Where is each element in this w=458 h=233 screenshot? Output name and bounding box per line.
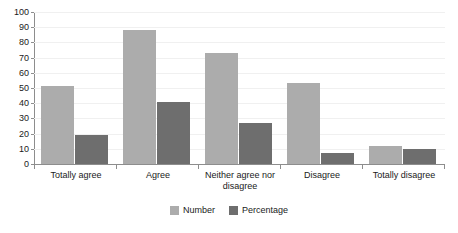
- y-tick-label: 50: [19, 84, 29, 93]
- bar-percentage: [75, 135, 108, 164]
- y-tick-label: 10: [19, 144, 29, 153]
- bar-number: [205, 53, 238, 164]
- bar-number: [123, 30, 156, 164]
- y-tick-label: 90: [19, 23, 29, 32]
- y-tick-label: 0: [24, 160, 29, 169]
- bar-percentage: [239, 123, 272, 164]
- legend-item[interactable]: Number: [170, 206, 215, 215]
- y-tick-mark: [31, 118, 34, 119]
- y-tick-mark: [31, 12, 34, 13]
- x-tick-mark: [116, 164, 117, 169]
- bar-percentage: [403, 149, 436, 164]
- x-axis-label: Disagree: [281, 170, 363, 192]
- plot-area: 0102030405060708090100: [34, 12, 445, 164]
- bar-group: [35, 12, 117, 164]
- bar-group: [199, 12, 281, 164]
- bar-percentage: [321, 153, 354, 164]
- y-tick-label: 80: [19, 38, 29, 47]
- x-axis-label: Totally disagree: [363, 170, 445, 192]
- y-tick-mark: [31, 27, 34, 28]
- y-tick-mark: [31, 134, 34, 135]
- x-tick-mark: [198, 164, 199, 169]
- chart-legend: NumberPercentage: [0, 206, 458, 215]
- bar-number: [369, 146, 402, 164]
- x-tick-mark: [34, 164, 35, 169]
- y-tick-mark: [31, 149, 34, 150]
- x-tick-mark: [362, 164, 363, 169]
- y-tick-label: 70: [19, 53, 29, 62]
- y-tick-mark: [31, 58, 34, 59]
- bar-groups: [35, 12, 445, 164]
- legend-item[interactable]: Percentage: [229, 206, 288, 215]
- y-tick-mark: [31, 73, 34, 74]
- x-axis-category-labels: Totally agreeAgreeNeither agree nor disa…: [35, 170, 445, 192]
- y-tick-mark: [31, 88, 34, 89]
- bar-group: [281, 12, 363, 164]
- bar-chart: 0102030405060708090100 Totally agreeAgre…: [0, 0, 458, 233]
- y-tick-label: 60: [19, 68, 29, 77]
- bar-number: [41, 86, 74, 164]
- y-tick-mark: [31, 103, 34, 104]
- x-axis-label: Neither agree nor disagree: [199, 170, 281, 192]
- bar-number: [287, 83, 320, 164]
- y-tick-label: 20: [19, 129, 29, 138]
- bar-group: [117, 12, 199, 164]
- x-tick-mark: [280, 164, 281, 169]
- legend-swatch-icon: [229, 206, 238, 215]
- bar-group: [363, 12, 445, 164]
- x-axis-label: Totally agree: [35, 170, 117, 192]
- x-axis-ticks: [34, 164, 445, 169]
- x-axis-label: Agree: [117, 170, 199, 192]
- y-tick-label: 100: [14, 8, 29, 17]
- x-tick-mark: [444, 164, 445, 169]
- y-tick-label: 30: [19, 114, 29, 123]
- legend-swatch-icon: [170, 206, 179, 215]
- bar-percentage: [157, 102, 190, 164]
- y-tick-label: 40: [19, 99, 29, 108]
- legend-label: Number: [183, 206, 215, 215]
- y-tick-mark: [31, 42, 34, 43]
- legend-label: Percentage: [242, 206, 288, 215]
